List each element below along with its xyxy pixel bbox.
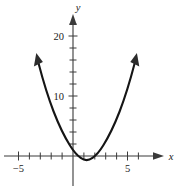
x-axis-label: x xyxy=(168,151,174,162)
y-tick-label-10: 10 xyxy=(54,91,65,102)
x-axis-arrowhead xyxy=(153,152,164,160)
plot-area: −5 5 10 20 x y xyxy=(0,0,181,186)
x-tick-label-5: 5 xyxy=(125,163,130,174)
y-axis-group xyxy=(69,14,77,186)
y-tick-label-20: 20 xyxy=(54,31,65,42)
parabola-curve-group xyxy=(34,53,139,160)
y-axis-arrowhead xyxy=(69,14,77,25)
parabola-graph-figure: −5 5 10 20 x y xyxy=(0,0,181,186)
x-tick-label-neg5: −5 xyxy=(13,163,24,174)
y-axis-label: y xyxy=(75,2,81,13)
parabola-curve xyxy=(39,64,135,161)
